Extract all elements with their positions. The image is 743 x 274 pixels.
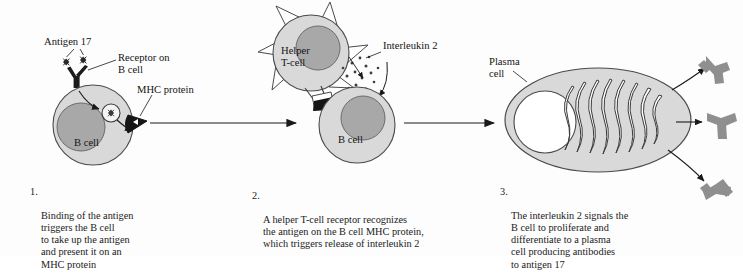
caption-text: Binding of the antigen triggers the B ce…: [41, 210, 245, 270]
antigen-leader-line: [80, 49, 84, 55]
caption-text: The interleukin 2 signals the B cell to …: [511, 210, 735, 270]
caption-step-1: 1. Binding of the antigen triggers the B…: [30, 186, 245, 274]
antigen-leader-line: [67, 49, 75, 57]
receptor-leader-line: [88, 60, 116, 70]
panel-2-activation-group: [258, 2, 494, 163]
interleukin-release-arrow: [349, 57, 363, 78]
caption-number: 3.: [500, 186, 508, 198]
label-interleukin-2: Interleukin 2: [383, 40, 437, 52]
label-receptor-on-bcell: Receptor on B cell: [118, 52, 169, 76]
label-b-cell-2: B cell: [338, 134, 363, 146]
label-b-cell-1: B cell: [74, 137, 99, 149]
interleukin-leader-line: [366, 52, 381, 58]
mhc-leader-line: [140, 95, 152, 116]
caption-number: 1.: [30, 186, 38, 198]
b-cell-receptor-icon: [67, 65, 88, 88]
antibody-secretion-arrow: [668, 150, 704, 181]
caption-text: A helper T-cell receptor recognizes the …: [263, 214, 502, 250]
mhc-protein-icon: [126, 115, 148, 133]
caption-number: 2.: [252, 190, 260, 202]
label-helper-t-cell: Helper T-cell: [281, 45, 310, 69]
label-antigen: Antigen 17: [44, 36, 91, 48]
interleukin-target-arrow: [379, 62, 387, 96]
caption-step-3: 3. The interleukin 2 signals the B cell …: [500, 186, 735, 274]
panel-3-plasma-cell-group: [505, 56, 737, 200]
antigen-particle-icon: [63, 56, 86, 65]
antibody-secretion-arrow: [672, 68, 705, 90]
caption-step-2: 2. A helper T-cell receptor recognizes t…: [252, 190, 502, 263]
antibody-icon: [707, 113, 737, 139]
vesicle-antigen-icon: [108, 110, 114, 117]
label-mhc-protein: MHC protein: [137, 84, 194, 96]
label-plasma-cell: Plasma cell: [489, 56, 520, 80]
